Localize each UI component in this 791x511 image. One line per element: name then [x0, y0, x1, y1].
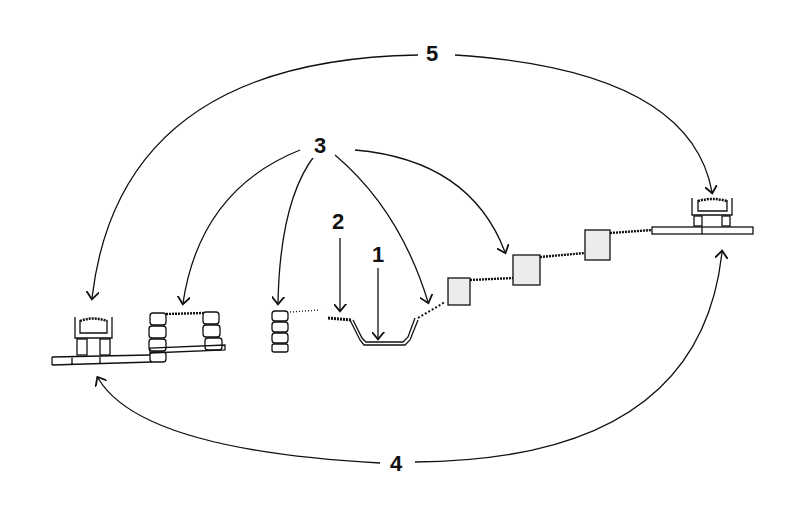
ditch [328, 302, 445, 345]
arrows-5 [92, 55, 712, 298]
left-planter [75, 317, 112, 355]
right-planter [692, 198, 732, 226]
diagram-canvas: 5 3 2 1 4 [0, 0, 791, 511]
stone-wall-left [149, 312, 222, 362]
stone-wall-right [272, 310, 320, 352]
terrace-steps [448, 230, 652, 305]
label-4: 4 [386, 452, 406, 476]
diagram-drawing [0, 0, 791, 511]
right-slab [652, 227, 753, 234]
arrows-4 [98, 252, 722, 463]
label-1: 1 [368, 243, 388, 267]
label-2: 2 [328, 210, 348, 234]
label-3: 3 [310, 134, 330, 158]
label-5: 5 [422, 42, 442, 66]
